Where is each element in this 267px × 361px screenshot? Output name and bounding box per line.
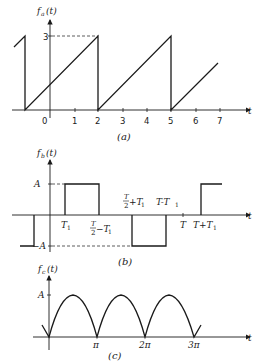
pulse-pos-1 bbox=[65, 184, 99, 215]
svg-text:1: 1 bbox=[72, 116, 77, 126]
svg-text:7: 7 bbox=[217, 116, 222, 126]
xlabel-c: t bbox=[248, 333, 252, 343]
xlabel-a: t bbox=[248, 106, 252, 116]
xtick-3pi: 3π bbox=[188, 340, 201, 350]
tick-T: T bbox=[180, 220, 187, 230]
svg-text:1: 1 bbox=[108, 228, 112, 235]
svg-text:2: 2 bbox=[91, 229, 95, 237]
svg-text:1: 1 bbox=[141, 201, 145, 208]
svg-text:b: b bbox=[41, 152, 45, 159]
tick-T1: T 1 bbox=[61, 220, 71, 231]
svg-text:a: a bbox=[41, 10, 45, 17]
ytick-A-c: A bbox=[37, 290, 45, 300]
ytick-A: A bbox=[33, 179, 41, 189]
svg-text:(t): (t) bbox=[46, 6, 57, 16]
tick-T-minus-T1: T-T 1 bbox=[156, 197, 179, 208]
svg-text:T-T: T-T bbox=[156, 197, 171, 207]
rectified-sine-curve bbox=[42, 295, 201, 337]
xtick-labels-a: 0 1 2 3 4 5 6 7 bbox=[42, 116, 222, 126]
svg-text:1: 1 bbox=[67, 224, 71, 231]
svg-text:2: 2 bbox=[95, 116, 100, 126]
ytick-3: 3 bbox=[43, 32, 48, 42]
sawtooth-curve bbox=[14, 36, 218, 110]
caption-c: (c) bbox=[108, 350, 122, 361]
svg-text:1: 1 bbox=[213, 224, 217, 231]
svg-text:2: 2 bbox=[124, 202, 128, 210]
svg-text:3: 3 bbox=[120, 116, 125, 126]
svg-text:4: 4 bbox=[144, 116, 149, 126]
svg-text:0: 0 bbox=[42, 116, 47, 126]
ylabel-a: f a (t) bbox=[36, 6, 57, 17]
ylabel-c: f c (t) bbox=[37, 264, 58, 275]
panel-b: A −A T 1 T 2 −T 1 T 2 +T 1 T-T 1 T T+T 1 bbox=[12, 148, 252, 267]
panel-c: A π 2π 3π t f c (t) (c) bbox=[33, 264, 252, 361]
svg-text:(t): (t) bbox=[46, 148, 57, 158]
xtick-pi: π bbox=[92, 340, 100, 350]
svg-text:c: c bbox=[42, 268, 46, 275]
svg-text:6: 6 bbox=[193, 116, 198, 126]
pulse-pos-2 bbox=[201, 184, 222, 215]
xtick-2pi: 2π bbox=[138, 340, 152, 350]
figure: 3 0 1 2 3 4 5 6 7 t f a (t) (a) A bbox=[0, 0, 267, 361]
caption-b: (b) bbox=[118, 256, 132, 267]
svg-text:(t): (t) bbox=[47, 264, 58, 274]
ytick-negA: −A bbox=[32, 241, 47, 251]
xlabel-b: t bbox=[248, 211, 252, 221]
svg-text:T+T: T+T bbox=[193, 220, 214, 230]
tick-half-minus-T1: T 2 −T 1 bbox=[90, 220, 112, 237]
caption-a: (a) bbox=[117, 131, 131, 142]
svg-text:1: 1 bbox=[175, 201, 179, 208]
panel-a: 3 0 1 2 3 4 5 6 7 t f a (t) (a) bbox=[12, 6, 252, 142]
ylabel-b: f b (t) bbox=[36, 148, 57, 159]
tick-T-plus-T1: T+T 1 bbox=[193, 220, 217, 231]
tick-half-plus-T1: T 2 +T 1 bbox=[123, 193, 145, 210]
pulse-neg-1 bbox=[132, 215, 166, 246]
svg-text:5: 5 bbox=[168, 116, 173, 126]
